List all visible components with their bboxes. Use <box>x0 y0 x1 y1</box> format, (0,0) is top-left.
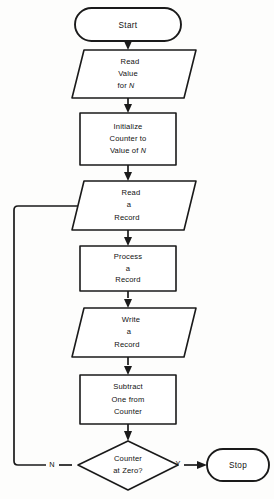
node-subtract-line2: One from <box>112 395 145 404</box>
branch-label-yes: Y <box>176 459 181 468</box>
connector-initialize-to-read-record <box>124 165 132 181</box>
node-process-record-line2: a <box>126 264 131 273</box>
node-subtract[interactable]: Subtract One from Counter <box>80 375 176 424</box>
node-decision-line1: Counter <box>114 454 142 463</box>
node-start[interactable]: Start <box>75 8 181 41</box>
node-write-record-line1: Write <box>122 315 140 324</box>
node-read-record[interactable]: Read a Record <box>72 181 196 230</box>
node-initialize-line1: Initialize <box>114 122 143 131</box>
node-subtract-line1: Subtract <box>113 382 143 391</box>
node-decision-line2: at Zero? <box>113 466 142 475</box>
node-read-value-line3-prefix: for <box>118 81 130 90</box>
node-read-value-line2: Value <box>118 69 138 78</box>
node-write-record[interactable]: Write a Record <box>72 308 196 357</box>
node-read-value-variable: N <box>129 81 135 90</box>
node-subtract-line3: Counter <box>114 407 142 416</box>
connector-start-to-read-value <box>124 41 132 50</box>
node-process-record[interactable]: Process a Record <box>80 246 176 291</box>
node-initialize-line3: Value of N <box>110 146 147 155</box>
connector-subtract-to-decision <box>124 424 132 441</box>
node-stop-label: Stop <box>229 461 247 470</box>
node-process-record-line3: Record <box>115 275 140 284</box>
branch-label-no: N <box>49 460 54 469</box>
flowchart-canvas: Start Read Value for N Initialize Counte… <box>0 0 274 499</box>
connector-process-record-to-write-record <box>124 291 132 308</box>
connector-write-record-to-subtract <box>124 357 132 375</box>
node-initialize-line2: Counter to <box>110 134 147 143</box>
node-write-record-line2: a <box>127 327 132 336</box>
node-read-record-line2: a <box>127 200 132 209</box>
node-decision[interactable]: Counter at Zero? <box>78 441 178 490</box>
node-initialize[interactable]: Initialize Counter to Value of N <box>80 113 176 165</box>
node-stop[interactable]: Stop <box>207 449 269 481</box>
node-process-record-line1: Process <box>114 252 143 261</box>
node-read-value[interactable]: Read Value for N <box>72 50 196 98</box>
node-initialize-variable: N <box>141 146 147 155</box>
flowchart-diagram: Start Read Value for N Initialize Counte… <box>0 0 274 499</box>
connector-read-record-to-process-record <box>124 230 132 246</box>
node-start-label: Start <box>119 21 138 30</box>
node-read-value-line3: for N <box>118 81 136 90</box>
node-read-record-line3: Record <box>114 213 139 222</box>
node-read-value-line1: Read <box>121 57 140 66</box>
node-write-record-line3: Record <box>114 340 139 349</box>
node-initialize-line3-prefix: Value of <box>110 146 141 155</box>
connector-read-value-to-initialize <box>124 98 132 113</box>
node-read-record-line1: Read <box>122 188 141 197</box>
